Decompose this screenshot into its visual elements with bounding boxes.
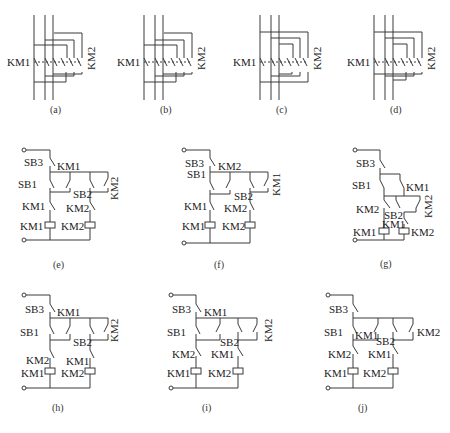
caption-g: (g) <box>380 258 392 270</box>
label-km2-nc: KM2 <box>328 348 351 360</box>
label-km2-nc: KM2 <box>66 202 89 214</box>
label-km1: KM1 <box>347 56 370 68</box>
label-km1-nc: KM1 <box>22 200 45 212</box>
panel-g: SB3 SB1 KM1 KM2 SB2 KM2 KM1 KM1 KM2 (g) <box>352 148 434 270</box>
panel-d: KM1 KM2 (d) <box>347 15 437 116</box>
label-sb1: SB1 <box>352 179 371 191</box>
label-km1: KM1 <box>233 56 256 68</box>
caption-f: (f) <box>214 259 224 271</box>
label-km2-hold: KM2 <box>108 177 120 200</box>
label-km1-hold: KM1 <box>406 181 429 193</box>
label-sb2: SB2 <box>376 335 395 347</box>
label-coil-km1: KM1 <box>324 367 347 379</box>
label-sb1: SB1 <box>167 326 186 338</box>
label-coil-km2: KM2 <box>222 220 245 232</box>
caption-d: (d) <box>390 104 402 116</box>
label-sb2: SB2 <box>220 336 239 348</box>
label-sb2: SB2 <box>73 188 92 200</box>
label-km2-hold: KM2 <box>262 319 274 342</box>
panel-e: SB3 KM1 SB1 SB2 KM2 KM1 KM2 KM1 KM2 (e) <box>18 148 120 271</box>
caption-j: (j) <box>358 402 367 414</box>
label-sb3: SB3 <box>25 303 44 315</box>
panel-a: KM1 KM2 (a) <box>7 15 97 116</box>
label-km2-nc: KM2 <box>172 348 195 360</box>
label-km2-hold: KM2 <box>422 195 434 218</box>
label-km2: KM2 <box>311 47 323 70</box>
label-km2-nc: KM2 <box>224 202 247 214</box>
caption-e: (e) <box>53 259 64 271</box>
label-km2-nc: KM2 <box>26 354 49 366</box>
label-km1-nc: KM1 <box>382 218 405 230</box>
label-km2-hold: KM2 <box>417 326 440 338</box>
caption-h: (h) <box>52 402 64 414</box>
label-sb1: SB1 <box>20 326 39 338</box>
panel-c: KM1 KM2 (c) <box>233 15 323 116</box>
label-km1-nc: KM1 <box>368 348 391 360</box>
label-km1-interlock: KM1 <box>204 306 227 318</box>
panel-h: SB3 KM1 SB1 SB2 KM2 KM2 KM1 KM1 KM2 (h) <box>20 293 120 414</box>
label-coil-km2: KM2 <box>208 367 231 379</box>
label-sb3: SB3 <box>24 156 43 168</box>
panel-f: SB3 KM2 SB1 SB2 KM1 KM1 KM2 KM1 KM2 (f) <box>182 148 282 271</box>
label-km1: KM1 <box>117 56 140 68</box>
label-km1-hold: KM1 <box>355 329 378 341</box>
label-km2-interlock: KM2 <box>218 160 241 172</box>
label-sb2: SB2 <box>234 190 253 202</box>
label-coil-km1: KM1 <box>167 367 190 379</box>
label-coil-km2: KM2 <box>363 367 386 379</box>
label-sb2: SB2 <box>73 336 92 348</box>
panel-i: SB3 KM1 SB1 SB2 KM2 KM2 KM1 KM1 KM2 (i) <box>167 293 274 414</box>
label-km1: KM1 <box>7 56 30 68</box>
circuit-diagram: KM1 KM2 (a) KM1 KM2 (b) KM1 KM2 <box>0 0 450 433</box>
caption-b: (b) <box>160 104 172 116</box>
panel-b: KM1 KM2 (b) <box>117 15 207 116</box>
label-sb3: SB3 <box>356 157 375 169</box>
panel-j: SB3 SB1 KM1 SB2 KM2 KM2 KM1 KM1 KM2 (j) <box>324 293 440 414</box>
label-km2: KM2 <box>425 47 437 70</box>
label-coil-km1: KM1 <box>21 367 44 379</box>
label-km1-interlock: KM1 <box>57 160 80 172</box>
caption-i: (i) <box>202 402 211 414</box>
label-km2-hold: KM2 <box>108 319 120 342</box>
label-km2-nc: KM2 <box>356 203 379 215</box>
label-km2: KM2 <box>85 47 97 70</box>
label-km1-nc: KM1 <box>184 200 207 212</box>
label-sb3: SB3 <box>172 303 191 315</box>
caption-c: (c) <box>276 104 287 116</box>
label-coil-km1: KM1 <box>20 220 43 232</box>
label-coil-km1: KM1 <box>182 220 205 232</box>
label-sb1: SB1 <box>324 326 343 338</box>
label-sb1: SB1 <box>187 168 206 180</box>
label-km1-nc: KM1 <box>211 348 234 360</box>
label-km1-interlock: KM1 <box>57 306 80 318</box>
label-km1-nc: KM1 <box>66 355 89 367</box>
label-km2: KM2 <box>195 47 207 70</box>
label-sb3: SB3 <box>329 303 348 315</box>
label-coil-km2: KM2 <box>61 367 84 379</box>
label-sb1: SB1 <box>18 178 37 190</box>
label-coil-km1: KM1 <box>353 226 376 238</box>
label-km1-hold: KM1 <box>270 173 282 196</box>
label-coil-km2: KM2 <box>411 226 434 238</box>
label-coil-km2: KM2 <box>61 220 84 232</box>
caption-a: (a) <box>50 104 61 116</box>
